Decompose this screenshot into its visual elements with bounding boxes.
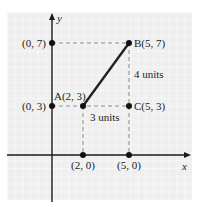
point-c: [126, 103, 132, 109]
coordinate-plane-diagram: y x (0, 7) (0, 3) A(2, 3) B(5, 7) C(5, 3…: [0, 0, 199, 207]
y-axis-label: y: [56, 12, 62, 24]
label-5-0: (5, 0): [117, 159, 141, 172]
label-0-3: (0, 3): [22, 100, 46, 113]
point-a: [80, 103, 86, 109]
x-axis-label: x: [181, 160, 187, 172]
label-4-units: 4 units: [134, 68, 164, 80]
label-0-7: (0, 7): [22, 37, 46, 50]
point-0-7: [49, 40, 55, 46]
label-b: B(5, 7): [134, 37, 166, 50]
label-c: C(5, 3): [134, 100, 166, 113]
label-2-0: (2, 0): [71, 159, 95, 172]
point-2-0: [80, 152, 86, 158]
label-3-units: 3 units: [90, 111, 120, 123]
label-a: A(2, 3): [54, 90, 86, 103]
point-0-3: [49, 103, 55, 109]
point-5-0: [126, 152, 132, 158]
point-b: [126, 40, 132, 46]
plane-svg: y x (0, 7) (0, 3) A(2, 3) B(5, 7) C(5, 3…: [0, 0, 199, 207]
